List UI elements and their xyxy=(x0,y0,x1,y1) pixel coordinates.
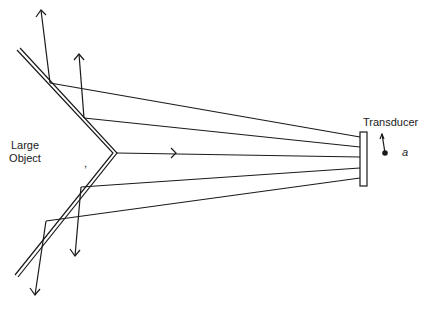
ray-direction-arrow-icon xyxy=(171,148,176,158)
object-label-line1: Large xyxy=(11,139,39,151)
point-a-displacement-arrow xyxy=(380,134,385,153)
reflected-ray-down-2 xyxy=(30,221,46,295)
ray-lines xyxy=(46,83,360,221)
point-a-label: a xyxy=(402,146,408,158)
object-label-line2: Object xyxy=(9,152,41,164)
reflected-ray-down-1 xyxy=(70,187,81,256)
transducer-label: Transducer xyxy=(363,116,419,128)
ultrasound-reflection-diagram: Large Object , Transducer a xyxy=(0,0,432,312)
point-a-marker xyxy=(382,150,388,156)
transducer xyxy=(360,132,367,186)
tick-mark: , xyxy=(84,157,87,169)
